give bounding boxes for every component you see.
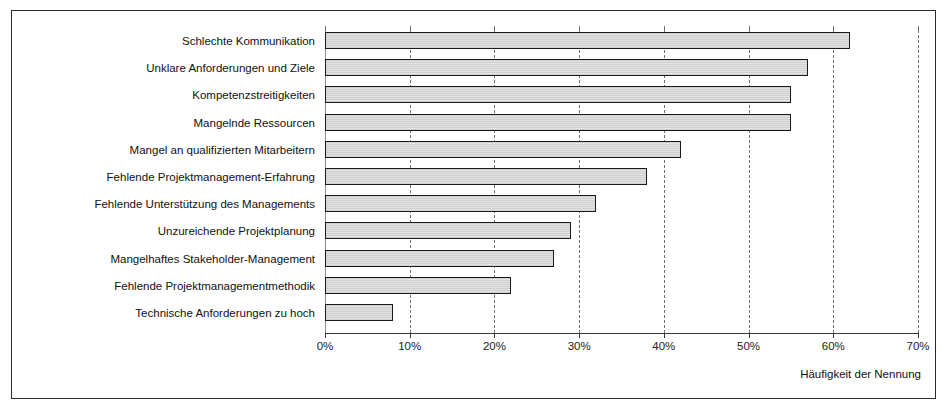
figure-canvas: 0%10%20%30%40%50%60%70% Häufigkeit der N… xyxy=(0,0,949,415)
bar xyxy=(325,59,808,76)
category-label: Fehlende Unterstützung des Managements xyxy=(60,196,315,213)
category-label: Mangelnde Ressourcen xyxy=(60,115,315,132)
gridline-60pct xyxy=(833,30,834,333)
x-tick-mark-top xyxy=(325,26,326,31)
category-label: Mangelhaftes Stakeholder-Management xyxy=(60,251,315,268)
bar xyxy=(325,86,791,103)
bar xyxy=(325,250,554,267)
x-axis-title: Häufigkeit der Nennung xyxy=(800,368,921,380)
x-tick-label: 0% xyxy=(317,340,334,352)
category-label: Kompetenzstreitigkeiten xyxy=(60,87,315,104)
bar xyxy=(325,168,647,185)
bar xyxy=(325,141,681,158)
plot-area xyxy=(325,30,918,333)
x-tick-mark xyxy=(579,333,580,338)
bar xyxy=(325,277,511,294)
x-tick-mark-top xyxy=(664,26,665,31)
x-tick-mark-top xyxy=(410,26,411,31)
x-tick-mark-top xyxy=(833,26,834,31)
x-tick-label: 10% xyxy=(398,340,421,352)
gridline-70pct xyxy=(918,30,919,333)
x-tick-label: 50% xyxy=(737,340,760,352)
x-tick-label: 60% xyxy=(822,340,845,352)
x-tick-mark-top xyxy=(918,26,919,31)
bar xyxy=(325,114,791,131)
x-tick-mark xyxy=(918,333,919,338)
x-tick-label: 40% xyxy=(652,340,675,352)
x-tick-mark-top xyxy=(579,26,580,31)
x-tick-label: 70% xyxy=(906,340,929,352)
x-tick-mark xyxy=(494,333,495,338)
bar xyxy=(325,222,571,239)
x-tick-mark xyxy=(410,333,411,338)
bar xyxy=(325,32,850,49)
x-tick-mark xyxy=(325,333,326,338)
x-tick-mark xyxy=(833,333,834,338)
x-tick-label: 20% xyxy=(483,340,506,352)
x-tick-mark-top xyxy=(749,26,750,31)
category-label: Unklare Anforderungen und Ziele xyxy=(60,60,315,77)
category-label: Unzureichende Projektplanung xyxy=(60,223,315,240)
category-label: Technische Anforderungen zu hoch xyxy=(60,305,315,322)
category-label: Schlechte Kommunikation xyxy=(60,33,315,50)
x-tick-mark xyxy=(749,333,750,338)
x-tick-mark xyxy=(664,333,665,338)
category-label: Fehlende Projektmanagementmethodik xyxy=(60,278,315,295)
x-tick-label: 30% xyxy=(568,340,591,352)
x-axis-line xyxy=(325,333,918,334)
bar xyxy=(325,195,596,212)
category-label: Mangel an qualifizierten Mitarbeitern xyxy=(60,142,315,159)
x-tick-mark-top xyxy=(494,26,495,31)
bar xyxy=(325,304,393,321)
category-label: Fehlende Projektmanagement-Erfahrung xyxy=(60,169,315,186)
